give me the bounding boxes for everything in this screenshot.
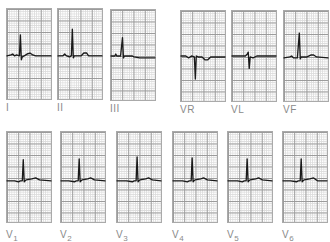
ecg-panel-lead-vl (231, 10, 277, 102)
ecg-trace-lead-v6 (283, 132, 327, 222)
ecg-trace-lead-v5 (228, 132, 272, 222)
ecg-panel-lead-v4 (172, 131, 218, 223)
lead-label-v4: V4 (172, 230, 184, 242)
lead-label-v5: V5 (227, 230, 239, 242)
ecg-panel-lead-v5 (227, 131, 273, 223)
lead-label-v2: V2 (60, 230, 72, 242)
lead-label-ii: II (57, 103, 64, 113)
lead-label-vr: VR (180, 105, 195, 115)
ecg-panel-lead-i (6, 8, 52, 100)
ecg-panel-lead-iii (110, 9, 156, 101)
ecg-trace-lead-vl (232, 11, 276, 101)
lead-label-iii: III (110, 104, 120, 114)
ecg-trace-lead-vf (284, 11, 328, 101)
ecg-panel-lead-vr (180, 10, 226, 102)
lead-label-v3: V3 (116, 230, 128, 242)
lead-label-vf: VF (283, 105, 297, 115)
ecg-trace-lead-vr (181, 11, 225, 101)
ecg-panel-lead-v2 (60, 131, 106, 223)
ecg-trace-lead-v4 (173, 132, 217, 222)
lead-label-vl: VL (231, 105, 244, 115)
lead-label-i: I (6, 103, 9, 113)
ecg-trace-lead-v1 (7, 132, 51, 222)
ecg-panel-lead-ii (57, 8, 103, 100)
ecg-trace-lead-v3 (117, 132, 161, 222)
lead-label-v6: V6 (282, 230, 294, 242)
ecg-trace-lead-v2 (61, 132, 105, 222)
ecg-panel-lead-vf (283, 10, 329, 102)
ecg-trace-lead-i (7, 9, 51, 99)
ecg-trace-lead-iii (111, 10, 155, 100)
ecg-panel-lead-v3 (116, 131, 162, 223)
ecg-panel-lead-v1 (6, 131, 52, 223)
ecg-trace-lead-ii (58, 9, 102, 99)
ecg-panel-lead-v6 (282, 131, 328, 223)
lead-label-v1: V1 (6, 230, 18, 242)
